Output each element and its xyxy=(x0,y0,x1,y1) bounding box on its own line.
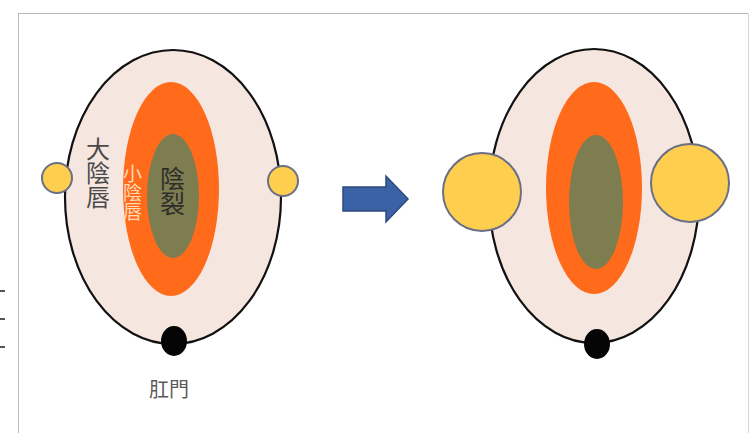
side-circle-right-large xyxy=(651,144,729,222)
arrow-right-icon xyxy=(343,176,408,222)
center-ellipse-right xyxy=(569,135,623,269)
label-labia-minora: 小陰唇 xyxy=(121,164,140,221)
label-cleft: 陰裂 xyxy=(158,166,183,216)
side-circle-left-large xyxy=(443,153,521,231)
label-labia-majora: 大陰唇 xyxy=(83,137,107,209)
anus-dot-left xyxy=(161,326,187,356)
side-circle-left-small xyxy=(42,163,72,193)
right-panel xyxy=(443,49,729,359)
label-anus: 肛門 xyxy=(149,374,189,403)
side-circle-right-small xyxy=(268,166,298,196)
anus-dot-right xyxy=(584,329,610,359)
